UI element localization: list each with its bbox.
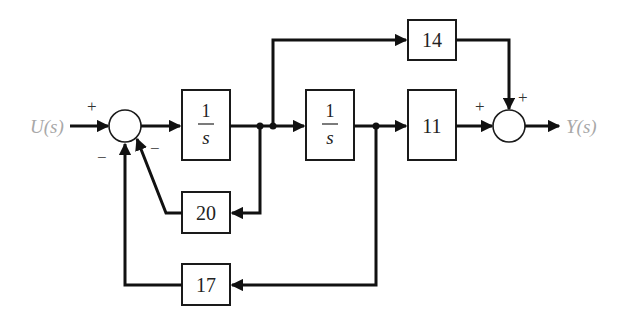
gain-20-label: 20: [196, 202, 216, 224]
gain-17-label: 17: [196, 274, 216, 296]
integrator2-denominator: s: [326, 127, 333, 148]
integrator1-denominator: s: [202, 127, 209, 148]
sum1-plus-sign: +: [87, 97, 97, 116]
gain-17-block: 17: [182, 264, 230, 305]
gain-14-label: 14: [422, 29, 442, 51]
integrator1-block: 1 s: [182, 90, 230, 160]
gain-11-block: 11: [408, 90, 456, 160]
integrator2-block: 1 s: [306, 90, 354, 160]
sum2-plus-sign-top: +: [518, 88, 528, 107]
sum1-minus-sign-17: −: [97, 148, 107, 167]
summing-junction-1: [109, 110, 141, 142]
summing-junction-2: [493, 110, 525, 142]
feedback-to-20-arrow: [232, 126, 260, 213]
integrator2-numerator: 1: [326, 101, 335, 121]
input-label: U(s): [30, 116, 64, 138]
gain-20-block: 20: [182, 192, 230, 233]
output-label: Y(s): [566, 116, 597, 138]
sum2-plus-sign-left: +: [475, 97, 485, 116]
gain-11-label: 11: [422, 115, 441, 137]
gain-14-block: 14: [408, 20, 456, 60]
block-diagram: U(s) + − − 1 s 14 + 20 1 s: [0, 0, 621, 320]
integrator1-numerator: 1: [202, 101, 211, 121]
sum1-minus-sign-20: −: [150, 139, 160, 158]
